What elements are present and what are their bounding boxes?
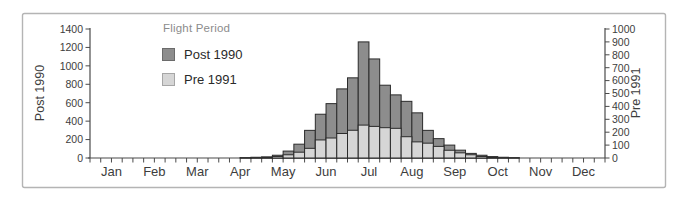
bar-pre-1991 <box>466 155 477 158</box>
month-label: Mar <box>186 164 209 179</box>
right-axis-tick-label: 800 <box>612 49 630 61</box>
month-label: Apr <box>230 164 251 179</box>
legend-item-post-1990: Post 1990 <box>162 47 243 62</box>
right-axis-tick-label: 900 <box>612 36 630 48</box>
pre-1991-swatch <box>162 73 175 86</box>
month-label: Nov <box>529 164 553 179</box>
month-label: May <box>271 164 296 179</box>
left-axis-tick-label: 200 <box>65 133 83 145</box>
right-axis-tick-label: 200 <box>612 126 630 138</box>
left-axis-tick-label: 1200 <box>60 41 84 53</box>
legend-label-post-1990: Post 1990 <box>184 47 243 62</box>
left-axis-tick-label: 400 <box>65 115 83 127</box>
bar-pre-1991 <box>326 138 337 158</box>
bar-pre-1991 <box>283 155 294 158</box>
month-label: Jul <box>361 164 378 179</box>
left-axis-title: Post 1990 <box>33 65 47 121</box>
right-axis-tick-label: 700 <box>612 62 630 74</box>
bar-pre-1991 <box>348 130 359 158</box>
right-axis-tick-label: 500 <box>612 87 630 99</box>
bar-pre-1991 <box>337 133 348 158</box>
right-axis-tick-label: 300 <box>612 113 630 125</box>
left-axis-tick-label: 600 <box>65 97 83 109</box>
bar-pre-1991 <box>294 152 305 158</box>
bar-pre-1991 <box>487 157 498 158</box>
bar-pre-1991 <box>315 140 326 158</box>
left-axis-tick-label: 1400 <box>60 23 84 35</box>
flight-period-chart: 0200400600800100012001400010020030040050… <box>0 0 687 200</box>
right-axis-tick-label: 1000 <box>612 23 636 35</box>
right-axis-tick-label: 100 <box>612 139 630 151</box>
bar-pre-1991 <box>433 146 444 158</box>
right-axis-tick-label: 400 <box>612 100 630 112</box>
bar-pre-1991 <box>444 150 455 158</box>
bar-pre-1991 <box>262 157 273 158</box>
bar-pre-1991 <box>412 142 423 158</box>
bar-pre-1991 <box>455 153 466 158</box>
legend-item-pre-1991: Pre 1991 <box>162 72 243 87</box>
post-1990-swatch <box>162 48 175 61</box>
bar-pre-1991 <box>358 125 369 158</box>
month-label: Feb <box>143 164 165 179</box>
month-label: Oct <box>488 164 509 179</box>
month-label: Aug <box>400 164 423 179</box>
bar-pre-1991 <box>423 143 434 158</box>
month-label: Jan <box>101 164 122 179</box>
bar-pre-1991 <box>305 148 316 158</box>
bar-pre-1991 <box>401 137 412 158</box>
bar-pre-1991 <box>380 128 391 158</box>
bar-pre-1991 <box>272 156 283 158</box>
legend-title: Flight Period <box>163 22 243 34</box>
legend: Flight Period Post 1990 Pre 1991 <box>162 22 243 97</box>
legend-label-pre-1991: Pre 1991 <box>184 72 237 87</box>
right-axis-tick-label: 0 <box>612 152 618 164</box>
left-axis-tick-label: 1000 <box>60 60 84 72</box>
month-label: Jun <box>316 164 337 179</box>
right-axis-title: Pre 1991 <box>629 68 643 119</box>
left-axis-tick-label: 0 <box>77 152 83 164</box>
month-label: Sep <box>443 164 466 179</box>
bar-pre-1991 <box>390 128 401 158</box>
bar-pre-1991 <box>476 156 487 158</box>
right-axis-tick-label: 600 <box>612 74 630 86</box>
month-label: Dec <box>572 164 596 179</box>
left-axis-tick-label: 800 <box>65 78 83 90</box>
flight-period-chart-panel: 0200400600800100012001400010020030040050… <box>0 0 687 200</box>
bar-pre-1991 <box>369 126 380 158</box>
